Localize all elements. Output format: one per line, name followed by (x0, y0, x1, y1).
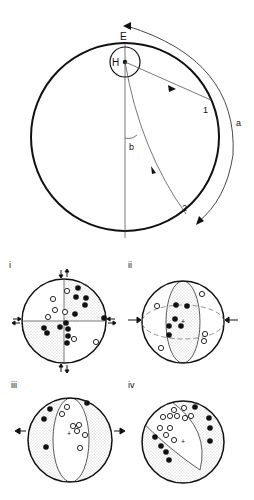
panel-i: i (9, 260, 116, 373)
angle-b-arc (125, 135, 137, 139)
ray-2-arrow (151, 166, 156, 174)
svg-text:+: + (67, 430, 71, 437)
panel-ii: ii + (128, 260, 238, 363)
panel-iii: iii + (11, 380, 125, 483)
diagram-canvas: E H 1 2 a b i (0, 0, 254, 500)
ray-1 (125, 62, 211, 100)
panel-iv-label: iv (128, 380, 135, 390)
svg-text:+: + (181, 438, 185, 445)
label-b: b (129, 142, 134, 152)
panel-ii-label: ii (128, 260, 132, 270)
ray-1-arrow (168, 85, 176, 92)
label-a: a (236, 118, 241, 128)
arc-a-arrow-top (123, 22, 131, 30)
main-diagram: E H 1 2 a b (31, 22, 241, 238)
panel-iv: iv + (128, 380, 224, 483)
label-point-1: 1 (203, 105, 208, 115)
nodal-plane-clear (53, 398, 89, 482)
panel-iii-label: iii (11, 380, 17, 390)
label-H: H (112, 57, 119, 68)
panel-i-label: i (9, 260, 11, 270)
label-E: E (120, 31, 127, 42)
label-point-2: 2 (182, 203, 187, 213)
